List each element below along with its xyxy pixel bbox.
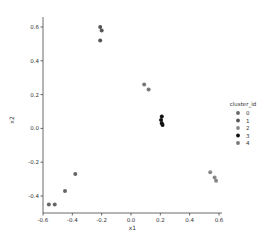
series-cluster-0 xyxy=(47,172,77,206)
legend-label-0: 0 xyxy=(246,110,250,116)
plot-area xyxy=(47,25,218,206)
y-tick-label: 0.0 xyxy=(30,125,39,131)
legend-title: cluster_id xyxy=(230,101,256,108)
y-tick-label: 0.2 xyxy=(30,92,39,98)
legend-marker-3 xyxy=(236,134,240,138)
x-axis-ticks: -0.6-0.4-0.20.00.20.40.6 xyxy=(38,213,224,223)
series-cluster-3 xyxy=(159,115,164,127)
x-tick-label: -0.4 xyxy=(67,217,78,223)
data-point xyxy=(159,118,163,122)
y-tick-label: 0.6 xyxy=(30,24,39,30)
data-point xyxy=(73,172,77,176)
legend: cluster_id 01234 xyxy=(230,101,256,146)
data-point xyxy=(53,202,57,206)
data-point xyxy=(98,39,102,43)
y-tick-label: -0.4 xyxy=(28,193,39,199)
data-point xyxy=(161,123,165,127)
series-cluster-4 xyxy=(142,82,150,91)
x-tick-label: -0.2 xyxy=(96,217,107,223)
x-tick-label: 0.2 xyxy=(156,217,165,223)
data-point xyxy=(160,115,164,119)
scatter-chart: -0.6-0.4-0.20.00.20.40.6 -0.4-0.20.00.20… xyxy=(0,0,273,243)
data-point xyxy=(214,179,218,183)
data-point xyxy=(147,88,151,92)
legend-marker-1 xyxy=(236,119,240,123)
legend-label-2: 2 xyxy=(246,125,250,131)
series-cluster-1 xyxy=(98,25,103,43)
legend-marker-0 xyxy=(236,111,240,115)
legend-marker-2 xyxy=(236,126,240,130)
data-point xyxy=(47,202,51,206)
legend-label-4: 4 xyxy=(246,140,250,146)
series-cluster-2 xyxy=(208,170,218,182)
data-point xyxy=(208,170,212,174)
data-point xyxy=(142,82,146,86)
x-tick-label: 0.6 xyxy=(215,217,224,223)
legend-label-1: 1 xyxy=(246,118,250,124)
x-tick-label: -0.6 xyxy=(38,217,49,223)
data-point xyxy=(63,189,67,193)
x-tick-label: 0.4 xyxy=(185,217,194,223)
y-axis-ticks: -0.4-0.20.00.20.40.6 xyxy=(28,24,43,199)
y-axis-label: x2 xyxy=(8,116,15,124)
legend-marker-4 xyxy=(236,141,240,145)
data-point xyxy=(100,28,104,32)
y-tick-label: 0.4 xyxy=(30,58,39,64)
legend-label-3: 3 xyxy=(246,133,250,139)
y-tick-label: -0.2 xyxy=(28,159,39,165)
x-axis-label: x1 xyxy=(129,224,137,231)
x-tick-label: 0.0 xyxy=(127,217,136,223)
